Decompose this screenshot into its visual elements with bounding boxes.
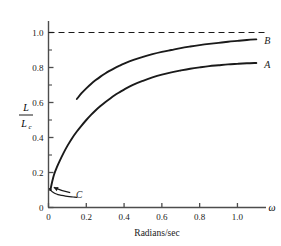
curve-label-b: B [264, 35, 270, 46]
y-tick-label-0: 0 [39, 203, 44, 213]
x-tick-label-2: 0.4 [118, 212, 130, 222]
x-tick-label-0: 0 [46, 212, 51, 222]
x-axis-title: Radians/sec [134, 228, 179, 238]
x-axis-symbol-omega: ω [268, 202, 275, 213]
curve-label-a: A [263, 59, 271, 70]
curve-label-c: C [76, 190, 83, 200]
chart-plot: 00.20.40.60.81.0 00.20.40.60.81.0 BA Rad… [0, 0, 281, 246]
y-tick-label-5: 1.0 [32, 28, 44, 38]
y-tick-label-4: 0.8 [32, 63, 44, 73]
y-tick-label-3: 0.6 [32, 98, 44, 108]
x-tick-label-3: 0.6 [156, 212, 168, 222]
x-tick-label-4: 0.8 [194, 212, 206, 222]
x-tick-label-1: 0.2 [81, 212, 92, 222]
y-axis-title-numerator: L [22, 102, 29, 113]
figure-container: 00.20.40.60.81.0 00.20.40.60.81.0 BA Rad… [0, 0, 281, 246]
y-tick-label-2: 0.4 [32, 133, 44, 143]
x-tick-label-5: 1.0 [232, 212, 244, 222]
y-tick-label-1: 0.2 [32, 168, 43, 178]
y-axis-title-denominator: L [20, 118, 27, 129]
